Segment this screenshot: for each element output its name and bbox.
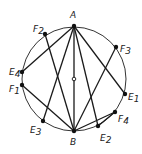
label-E3: E3	[30, 125, 42, 137]
segment-B-F3	[74, 47, 116, 131]
point-E2	[96, 124, 100, 128]
center-point	[72, 77, 76, 81]
label-E1: E1	[128, 92, 139, 104]
label-F3: F3	[120, 44, 131, 56]
point-A	[72, 24, 76, 28]
circle-chord-diagram: ABF2F3E4F1E1F4E3E2	[0, 0, 142, 154]
label-A: A	[69, 10, 76, 20]
segment-B-F2	[45, 34, 74, 131]
point-F4	[113, 110, 117, 114]
point-E1	[123, 92, 127, 96]
label-E4: E4	[9, 67, 21, 79]
label-F4: F4	[118, 114, 129, 126]
point-E4	[20, 70, 24, 74]
point-F3	[114, 45, 118, 49]
segment-B-F4	[74, 112, 115, 131]
point-B	[72, 129, 76, 133]
point-F1	[20, 83, 24, 87]
point-E3	[41, 119, 45, 123]
label-B: B	[70, 137, 76, 147]
label-E2: E2	[100, 133, 112, 145]
label-F1: F1	[9, 84, 20, 96]
label-F2: F2	[33, 24, 44, 36]
